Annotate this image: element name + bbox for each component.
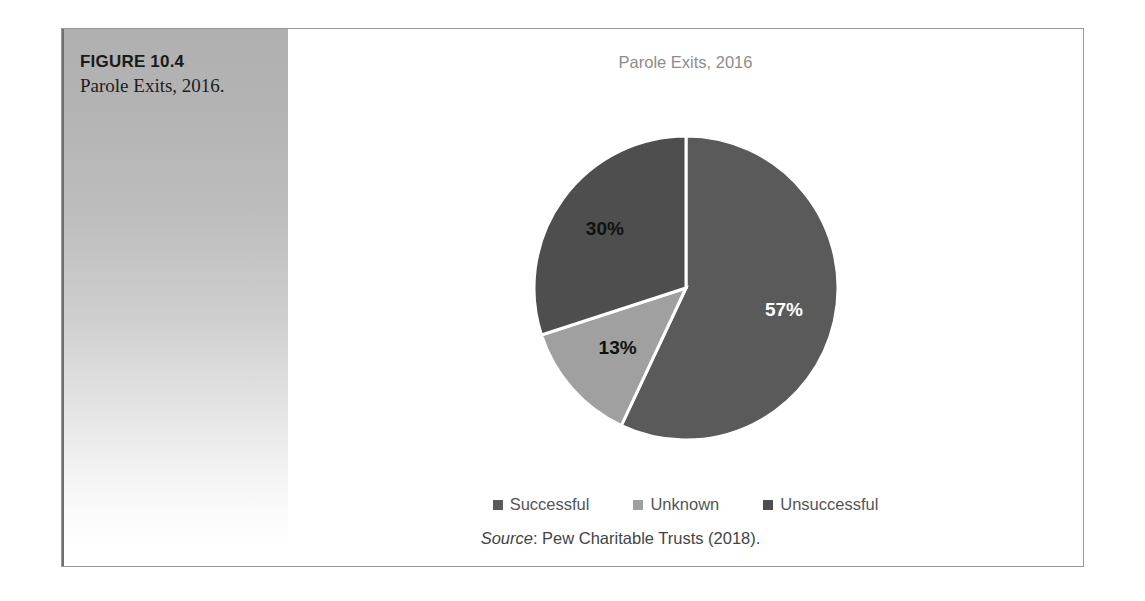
source-note: Source: Pew Charitable Trusts (2018). (288, 529, 1083, 548)
figure-number-label: FIGURE 10.4 (80, 51, 280, 72)
legend-item-unsuccessful[interactable]: Unsuccessful (763, 495, 878, 514)
legend-label-unknown: Unknown (650, 495, 719, 514)
legend-swatch-unknown (633, 500, 643, 510)
pie-chart: 57%13%30% (288, 125, 1083, 465)
legend-swatch-unsuccessful (763, 500, 773, 510)
legend-label-unsuccessful: Unsuccessful (780, 495, 878, 514)
chart-title: Parole Exits, 2016 (288, 53, 1083, 72)
pie-value-label-unsuccessful: 30% (585, 218, 623, 239)
figure-caption-text: Parole Exits, 2016. (80, 74, 280, 99)
legend-swatch-successful (493, 500, 503, 510)
source-separator: : (533, 529, 542, 547)
figure-caption-block: FIGURE 10.4 Parole Exits, 2016. (80, 51, 280, 99)
figure-caption-panel: FIGURE 10.4 Parole Exits, 2016. (62, 29, 288, 566)
chart-legend: Successful Unknown Unsuccessful (288, 495, 1083, 514)
pie-value-label-unknown: 13% (598, 337, 636, 358)
source-label: Source (481, 529, 533, 547)
chart-area: Parole Exits, 2016 57%13%30% Successful … (288, 29, 1083, 566)
legend-label-successful: Successful (510, 495, 590, 514)
figure-frame: FIGURE 10.4 Parole Exits, 2016. Parole E… (61, 28, 1084, 567)
pie-value-label-successful: 57% (764, 299, 802, 320)
legend-item-unknown[interactable]: Unknown (633, 495, 719, 514)
pie-slice-group (534, 136, 838, 440)
pie-chart-svg: 57%13%30% (516, 125, 856, 455)
source-text: Pew Charitable Trusts (2018). (542, 529, 760, 547)
legend-item-successful[interactable]: Successful (493, 495, 590, 514)
